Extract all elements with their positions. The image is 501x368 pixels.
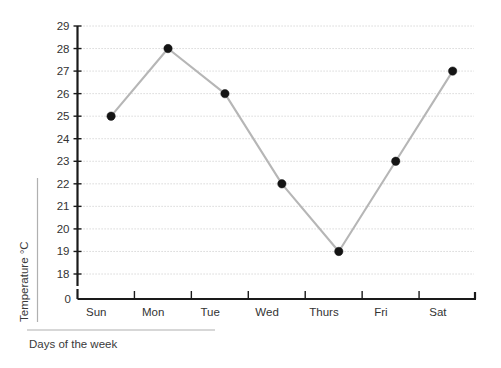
y-tick-label: 22 — [57, 178, 70, 190]
y-tick-label: 23 — [57, 155, 70, 167]
x-tick-label: Sun — [86, 306, 106, 318]
data-point-marker — [221, 89, 229, 97]
gridlines-group — [78, 26, 475, 274]
y-tick-label: 26 — [57, 88, 70, 100]
y-tick-label: 18 — [57, 268, 70, 280]
y-axis-zero-label: 0 — [65, 293, 71, 305]
y-tick-label: 20 — [57, 223, 70, 235]
y-tick-label: 19 — [57, 245, 70, 257]
temperature-line-chart: 181920212223242526272829 SunMonTueWedThu… — [0, 0, 501, 368]
x-tick-labels-group: SunMonTueWedThursFriSat — [86, 306, 447, 318]
x-tick-label: Fri — [374, 306, 387, 318]
y-tick-label: 27 — [57, 65, 70, 77]
y-tick-labels-group: 181920212223242526272829 — [57, 20, 70, 280]
x-tick-marks-group — [134, 291, 419, 299]
chart-canvas: 181920212223242526272829 SunMonTueWedThu… — [0, 0, 501, 368]
y-tick-label: 25 — [57, 110, 70, 122]
data-point-marker — [392, 157, 400, 165]
y-tick-label: 24 — [57, 133, 70, 145]
y-tick-label: 29 — [57, 20, 70, 32]
temperature-series-markers — [107, 44, 457, 255]
x-tick-label: Tue — [200, 306, 219, 318]
data-point-marker — [107, 112, 115, 120]
x-tick-label: Wed — [255, 306, 278, 318]
data-point-marker — [448, 67, 456, 75]
x-axis-title: Days of the week — [29, 338, 117, 350]
data-point-marker — [335, 247, 343, 255]
temperature-series-line — [111, 49, 453, 252]
y-tick-label: 28 — [57, 43, 70, 55]
y-axis-title: Temperature °C — [18, 241, 30, 322]
x-tick-label: Thurs — [309, 306, 339, 318]
x-tick-label: Mon — [142, 306, 164, 318]
y-tick-label: 21 — [57, 200, 70, 212]
data-point-marker — [278, 180, 286, 188]
x-tick-label: Sat — [429, 306, 447, 318]
data-point-marker — [164, 44, 172, 52]
